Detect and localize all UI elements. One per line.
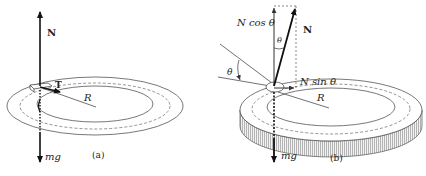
- diagram-canvas: R N T mg (a) R θ: [0, 0, 426, 176]
- caption-a: (a): [92, 150, 104, 160]
- normal-force-label-a: N: [47, 27, 56, 38]
- theta-label-top: θ: [277, 36, 282, 45]
- theta-arc-top: [274, 48, 284, 49]
- panel-b: R θ N cos θ N θ N sin θ mg (b): [218, 6, 422, 163]
- incline-line-upper: [220, 44, 276, 86]
- theta-label-left: θ: [227, 67, 233, 77]
- theta-arc-left: [238, 60, 240, 80]
- radius-label-a: R: [83, 92, 92, 103]
- radius-label-b: R: [316, 92, 325, 103]
- n-sin-label: N sin θ: [299, 76, 336, 87]
- weight-label-a: mg: [45, 151, 61, 162]
- tension-label-a: T: [55, 80, 62, 90]
- normal-force-label-b: N: [303, 24, 312, 35]
- caption-b: (b): [330, 153, 343, 163]
- weight-label-b: mg: [281, 150, 297, 161]
- normal-force-arrow-b: [274, 9, 295, 86]
- panel-a: R N T mg (a): [7, 12, 183, 162]
- n-cos-label: N cos θ: [236, 17, 275, 28]
